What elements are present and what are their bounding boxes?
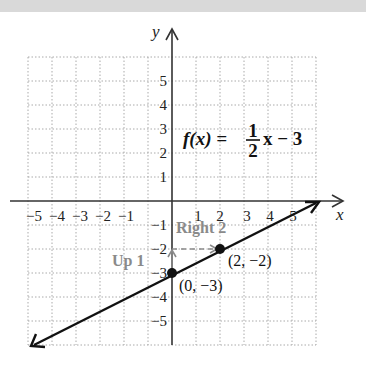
point-0-neg3 xyxy=(167,268,177,278)
svg-text:−2: −2 xyxy=(95,208,111,224)
svg-text:3: 3 xyxy=(243,208,251,224)
point-label-0-neg3: (0, −3) xyxy=(179,277,223,295)
svg-text:5: 5 xyxy=(160,73,168,89)
slope-annotations xyxy=(168,245,217,273)
svg-text:−3: −3 xyxy=(72,208,88,224)
axes xyxy=(10,29,343,345)
svg-text:−4: −4 xyxy=(151,289,167,305)
function-label: f(x) = 1 2 x − 3 xyxy=(183,120,302,161)
y-axis-label: y xyxy=(150,22,160,41)
svg-text:1: 1 xyxy=(248,120,258,141)
svg-text:x − 3: x − 3 xyxy=(263,128,302,149)
svg-text:−2: −2 xyxy=(151,241,167,257)
svg-text:4: 4 xyxy=(160,97,168,113)
svg-text:−1: −1 xyxy=(118,208,134,224)
svg-text:−5: −5 xyxy=(151,313,167,329)
point-label-2-neg2: (2, −2) xyxy=(228,252,272,270)
coordinate-plane: x y −5 −4 −3 −2 −1 1 2 3 4 5 5 4 3 2 1 −… xyxy=(0,0,366,369)
svg-text:4: 4 xyxy=(266,208,274,224)
right-2-label: Right 2 xyxy=(176,219,226,237)
svg-text:−5: −5 xyxy=(26,208,42,224)
point-2-neg2 xyxy=(215,244,225,254)
svg-text:2: 2 xyxy=(160,145,168,161)
svg-text:−1: −1 xyxy=(151,217,167,233)
svg-text:2: 2 xyxy=(248,140,258,161)
svg-text:3: 3 xyxy=(160,121,168,137)
up-1-label: Up 1 xyxy=(112,252,144,270)
svg-text:1: 1 xyxy=(160,169,168,185)
x-axis-label: x xyxy=(335,205,344,224)
svg-text:−4: −4 xyxy=(49,208,65,224)
svg-text:f(x) =: f(x) = xyxy=(183,128,227,150)
